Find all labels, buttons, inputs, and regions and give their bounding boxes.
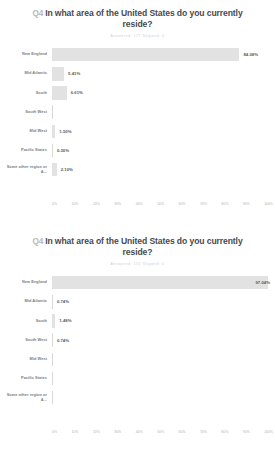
- chart-1-bar-row: Mid West 1.50%: [0, 122, 275, 141]
- chart-2-category-label: New England: [0, 280, 52, 285]
- chart-2-bar-track: 97.04%: [52, 273, 275, 292]
- chart-2-x-axis: 0% 10% 20% 30% 40% 50% 60% 70% 80% 90% 1…: [52, 428, 273, 440]
- chart-2-bar-track: 0.74%: [52, 331, 275, 350]
- chart-2-bar[interactable]: [52, 276, 268, 290]
- chart-1-title: Q4In what area of the United States do y…: [0, 0, 275, 30]
- x-tick: 100%: [264, 430, 273, 434]
- chart-1-bar-value: 84.08%: [243, 52, 258, 57]
- chart-1-bar-track: 1.50%: [52, 122, 275, 141]
- chart-2-category-label: Pacific States: [0, 376, 52, 381]
- chart-2-category-label: Mid West: [0, 357, 52, 362]
- chart-1-bar[interactable]: [52, 125, 55, 139]
- chart-2-title: Q4In what area of the United States do y…: [0, 228, 275, 258]
- x-tick: 60%: [179, 430, 186, 434]
- chart-1-bar-track: 2.10%: [52, 160, 275, 179]
- chart-2-bar[interactable]: [52, 314, 55, 328]
- chart-1-bar-track: 0.30%: [52, 141, 275, 160]
- chart-2-plot-area: New England 97.04% Mid Atlantic 0.74% So…: [0, 273, 275, 428]
- chart-1-bar-row: Pacific States 0.30%: [0, 141, 275, 160]
- x-tick: 90%: [243, 202, 250, 206]
- chart-1-bar-value: 0.30%: [57, 148, 69, 153]
- chart-2-category-label: Some other region or A...: [0, 393, 52, 402]
- x-tick: 70%: [200, 202, 207, 206]
- chart-2-bar-row: New England 97.04%: [0, 273, 275, 292]
- chart-2-bar-value: 1.48%: [59, 318, 71, 323]
- survey-chart-1: Q4In what area of the United States do y…: [0, 0, 275, 212]
- chart-1-bar-row: South 6.61%: [0, 83, 275, 102]
- chart-1-bar-row: New England 84.08%: [0, 45, 275, 64]
- x-tick: 100%: [264, 202, 273, 206]
- chart-2-bar[interactable]: [52, 391, 53, 405]
- x-tick: 10%: [72, 430, 79, 434]
- chart-2-bar[interactable]: [52, 333, 53, 347]
- chart-2-subtitle: Answered: 135 Skipped: 0: [0, 258, 275, 268]
- x-tick: 0%: [52, 430, 57, 434]
- chart-2-bar[interactable]: [52, 295, 53, 309]
- x-tick: 50%: [157, 202, 164, 206]
- chart-1-bar-track: 6.61%: [52, 83, 275, 102]
- chart-1-category-label: South: [0, 91, 52, 96]
- chart-1-x-axis-ticks: 0% 10% 20% 30% 40% 50% 60% 70% 80% 90% 1…: [52, 200, 273, 206]
- chart-2-question-text: In what area of the United States do you…: [45, 236, 242, 257]
- chart-1-category-label: South West: [0, 110, 52, 115]
- chart-2-bar-value: 0.74%: [57, 338, 69, 343]
- chart-1-bar-value: 1.50%: [59, 129, 71, 134]
- x-tick: 20%: [93, 202, 100, 206]
- chart-2-category-label: Mid Atlantic: [0, 299, 52, 304]
- x-tick: 30%: [114, 430, 121, 434]
- chart-2-bar-track: [52, 388, 275, 407]
- chart-2-bar-track: 0.74%: [52, 292, 275, 311]
- x-tick: 80%: [221, 430, 228, 434]
- chart-2-bar-row: Mid Atlantic 0.74%: [0, 292, 275, 311]
- chart-1-bar-track: [52, 103, 275, 122]
- chart-1-bar[interactable]: [52, 163, 57, 177]
- chart-1-bar[interactable]: [52, 144, 53, 158]
- chart-2-question-number: Q4: [32, 237, 43, 246]
- x-tick: 10%: [72, 202, 79, 206]
- chart-1-bar-value: 2.10%: [61, 167, 73, 172]
- chart-1-bar-track: 84.08%: [52, 45, 275, 64]
- chart-2-bar[interactable]: [52, 372, 53, 386]
- chart-1-bar-row: South West: [0, 103, 275, 122]
- chart-2-bar[interactable]: [52, 353, 53, 367]
- chart-2-bar-track: 1.48%: [52, 311, 275, 330]
- chart-1-bar-row: Some other region or A... 2.10%: [0, 160, 275, 179]
- chart-1-category-label: Some other region or A...: [0, 165, 52, 174]
- chart-separator: [0, 212, 275, 228]
- x-tick: 30%: [114, 202, 121, 206]
- chart-1-bar[interactable]: [52, 105, 53, 119]
- x-tick: 40%: [136, 430, 143, 434]
- chart-1-x-axis: 0% 10% 20% 30% 40% 50% 60% 70% 80% 90% 1…: [52, 200, 273, 212]
- chart-1-bar[interactable]: [52, 86, 67, 100]
- chart-2-bar-track: [52, 369, 275, 388]
- chart-1-category-label: Pacific States: [0, 148, 52, 153]
- x-tick: 40%: [136, 202, 143, 206]
- x-tick: 60%: [179, 202, 186, 206]
- chart-1-category-label: Mid Atlantic: [0, 71, 52, 76]
- chart-1-category-label: Mid West: [0, 129, 52, 134]
- x-tick: 70%: [200, 430, 207, 434]
- survey-chart-2: Q4In what area of the United States do y…: [0, 228, 275, 440]
- chart-2-bar-value: 97.04%: [255, 280, 270, 285]
- chart-1-bar[interactable]: [52, 48, 239, 62]
- chart-2-bar-row: South 1.48%: [0, 311, 275, 330]
- x-tick: 80%: [221, 202, 228, 206]
- chart-1-bar-track: 5.41%: [52, 64, 275, 83]
- chart-1-bar-value: 5.41%: [68, 71, 80, 76]
- chart-2-category-label: South West: [0, 338, 52, 343]
- x-tick: 50%: [157, 430, 164, 434]
- chart-1-subtitle: Answered: 177 Skipped: 0: [0, 30, 275, 40]
- chart-2-bar-track: [52, 350, 275, 369]
- x-tick: 20%: [93, 430, 100, 434]
- x-tick: 0%: [52, 202, 57, 206]
- chart-1-bar-value: 6.61%: [71, 90, 83, 95]
- chart-1-bar-row: Mid Atlantic 5.41%: [0, 64, 275, 83]
- chart-1-plot-area: New England 84.08% Mid Atlantic 5.41% So…: [0, 45, 275, 200]
- chart-2-category-label: South: [0, 319, 52, 324]
- chart-2-bar-row: South West 0.74%: [0, 331, 275, 350]
- chart-2-x-axis-ticks: 0% 10% 20% 30% 40% 50% 60% 70% 80% 90% 1…: [52, 428, 273, 434]
- chart-2-bar-row: Some other region or A...: [0, 388, 275, 407]
- chart-2-bar-row: Mid West: [0, 350, 275, 369]
- chart-2-bar-row: Pacific States: [0, 369, 275, 388]
- chart-1-bar[interactable]: [52, 67, 64, 81]
